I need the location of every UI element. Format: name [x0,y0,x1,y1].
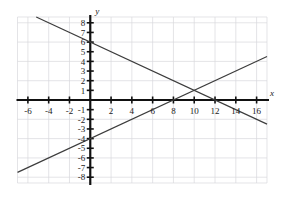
y-tick-label: 1 [81,86,86,96]
y-axis-label: y [94,6,99,16]
coordinate-plane-chart: -6-4-224681012141687654321-1-2-3-4-5-6-7… [0,0,282,199]
y-tick-label: 8 [81,18,86,28]
x-tick-label: -2 [66,106,74,116]
x-tick-label: 4 [130,106,135,116]
y-tick-label: 4 [81,57,86,67]
y-tick-label: 5 [81,47,86,57]
x-tick-label: 10 [190,106,200,116]
y-tick-label: -6 [78,153,86,163]
y-tick-label: 2 [81,76,86,86]
x-tick-label: 14 [231,106,241,116]
x-tick-label: 8 [171,106,176,116]
y-tick-label: -4 [78,134,86,144]
x-tick-label: 6 [150,106,155,116]
y-tick-label: -1 [78,105,86,115]
y-tick-label: -2 [78,115,86,125]
y-tick-label: -7 [78,163,86,173]
y-tick-label: -5 [78,143,86,153]
x-tick-label: 16 [252,106,262,116]
graph-figure: -6-4-224681012141687654321-1-2-3-4-5-6-7… [0,0,282,199]
y-tick-label: 7 [81,28,86,38]
y-tick-label: 6 [81,37,86,47]
y-tick-label: 3 [81,66,86,76]
x-axis-label: x [269,88,274,98]
y-tick-label: -8 [78,172,86,182]
x-tick-label: -6 [24,106,32,116]
x-tick-label: -4 [45,106,53,116]
y-tick-label: -3 [78,124,86,134]
x-tick-label: 12 [211,106,220,116]
x-tick-label: 2 [109,106,114,116]
